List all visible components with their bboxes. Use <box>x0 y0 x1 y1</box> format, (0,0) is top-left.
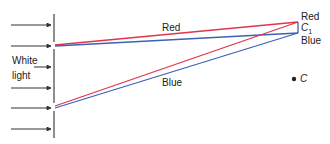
white-light-label-2: light <box>12 70 30 81</box>
screen-red-label: Red <box>301 11 319 22</box>
lower-path-label: Blue <box>162 77 182 88</box>
upper-path-label: Red <box>162 22 180 33</box>
light-rays <box>55 22 298 108</box>
white-light-label-1: White <box>12 55 38 66</box>
screen-blue-label: Blue <box>301 35 321 46</box>
center-point-marker <box>292 77 296 81</box>
red-ray-lower <box>55 22 298 106</box>
center-point-label: C <box>300 73 307 84</box>
